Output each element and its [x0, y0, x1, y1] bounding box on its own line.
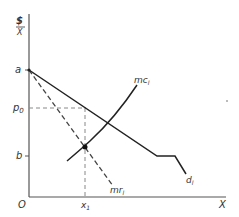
y-axis-label-top: $ [16, 15, 23, 26]
x-axis-label: X [218, 199, 227, 210]
diagram-canvas: $ X a p0 b O x1 X mcl mrl dl [0, 0, 239, 217]
label-mr: mrl [110, 185, 124, 196]
label-mc-main: mc [134, 75, 148, 85]
label-b: b [16, 150, 22, 161]
label-x1: x1 [80, 200, 90, 211]
origin-label: O [18, 199, 26, 210]
mr-curve [29, 70, 113, 186]
label-d: dl [186, 175, 194, 186]
mc-curve [67, 85, 137, 161]
label-d-sub: l [192, 179, 194, 186]
label-mc: mcl [134, 75, 150, 86]
label-p0: p0 [12, 102, 24, 115]
label-p0-main: p [12, 102, 19, 113]
label-a: a [15, 64, 21, 75]
label-mr-sub: l [122, 189, 124, 196]
y-axis-label-bottom: X [16, 28, 23, 37]
label-mc-sub: l [148, 79, 150, 86]
label-x1-sub: 1 [86, 204, 90, 211]
intersection-dot [83, 145, 88, 150]
demand-curve [29, 70, 186, 174]
label-p0-sub: 0 [19, 107, 24, 115]
speck [226, 100, 228, 102]
point-a [27, 68, 30, 71]
